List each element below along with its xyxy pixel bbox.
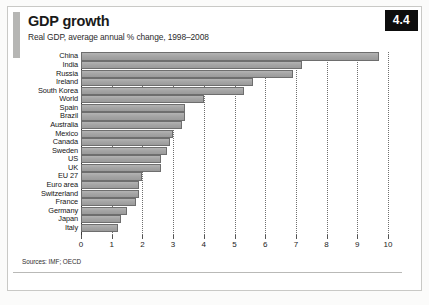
- x-tick-label: 3: [163, 240, 183, 249]
- bar-row: [81, 61, 388, 69]
- bar: [81, 190, 139, 198]
- bar-row: [81, 181, 388, 189]
- bar-chart: ChinaIndiaRussiaIrelandSouth KoreaWorldS…: [0, 0, 415, 285]
- source-note: Sources: IMF; OECD: [22, 258, 81, 265]
- bar-row: [81, 87, 388, 95]
- x-tick-label: 4: [194, 240, 214, 249]
- bar-row: [81, 147, 388, 155]
- x-tick-label: 6: [255, 240, 275, 249]
- bar-row: [81, 164, 388, 172]
- bar: [81, 112, 185, 120]
- bar: [81, 87, 244, 95]
- source-divider: [13, 272, 402, 273]
- bar: [81, 121, 182, 129]
- x-tick-label: 8: [317, 240, 337, 249]
- bar-row: [81, 190, 388, 198]
- category-label: Italy: [0, 223, 78, 232]
- x-tick-mark: [327, 235, 328, 239]
- x-tick-mark: [235, 235, 236, 239]
- chart-page: GDP growth Real GDP, average annual % ch…: [0, 0, 429, 305]
- bar: [81, 164, 161, 172]
- bar-row: [81, 215, 388, 223]
- x-tick-mark: [112, 235, 113, 239]
- bar: [81, 104, 185, 112]
- bar: [81, 215, 121, 223]
- bar-row: [81, 95, 388, 103]
- bars-container: [81, 52, 388, 232]
- bar-row: [81, 198, 388, 206]
- bar: [81, 224, 118, 232]
- x-tick-label: 1: [102, 240, 122, 249]
- bar-row: [81, 155, 388, 163]
- bar-row: [81, 130, 388, 138]
- x-tick-mark: [173, 235, 174, 239]
- x-tick-label: 10: [378, 240, 398, 249]
- bar-row: [81, 207, 388, 215]
- bar-row: [81, 172, 388, 180]
- x-tick-label: 2: [132, 240, 152, 249]
- bar: [81, 155, 161, 163]
- bar: [81, 172, 142, 180]
- x-tick-mark: [204, 235, 205, 239]
- bar: [81, 138, 170, 146]
- bar: [81, 181, 139, 189]
- x-tick-label: 0: [71, 240, 91, 249]
- bar-row: [81, 52, 388, 60]
- bar-row: [81, 224, 388, 232]
- category-labels: ChinaIndiaRussiaIrelandSouth KoreaWorldS…: [0, 52, 78, 235]
- x-tick-mark: [357, 235, 358, 239]
- bar: [81, 70, 293, 78]
- bar: [81, 207, 127, 215]
- bar: [81, 78, 253, 86]
- x-tick-label: 5: [225, 240, 245, 249]
- bar-row: [81, 138, 388, 146]
- bar: [81, 130, 173, 138]
- x-tick-mark: [265, 235, 266, 239]
- bar-row: [81, 121, 388, 129]
- bar-row: [81, 104, 388, 112]
- bar-row: [81, 78, 388, 86]
- bar: [81, 147, 167, 155]
- x-tick-mark: [81, 235, 82, 239]
- bar-row: [81, 112, 388, 120]
- bar: [81, 52, 379, 60]
- x-tick-label: 7: [286, 240, 306, 249]
- x-tick-mark: [296, 235, 297, 239]
- x-tick-mark: [142, 235, 143, 239]
- bar: [81, 95, 204, 103]
- bar: [81, 61, 302, 69]
- bar-row: [81, 70, 388, 78]
- bar: [81, 198, 136, 206]
- x-tick-label: 9: [347, 240, 367, 249]
- x-tick-mark: [388, 235, 389, 239]
- gridline: [388, 52, 389, 235]
